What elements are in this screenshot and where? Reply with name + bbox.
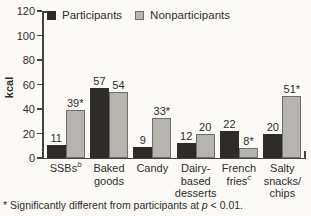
bar-group: 2051*Saltysnacks/chips [261, 11, 304, 211]
category-label: Saltysnacks/chips [264, 162, 301, 200]
legend-label: Nonparticipants [150, 9, 230, 21]
category-label: Frenchfriesc [222, 162, 256, 187]
y-tick-label: 40 [0, 103, 35, 115]
category-label: Candy [136, 162, 168, 175]
bar-pair: 228* [220, 11, 258, 158]
value-label: 39* [67, 97, 84, 109]
category-label: Dairy-baseddesserts [175, 162, 217, 200]
footnote-suffix: < 0.01. [208, 199, 243, 211]
plot-area: 1139*SSBsb5754Bakedgoods933*Candy1220Dai… [44, 11, 304, 211]
bar-nonparticipants [66, 110, 85, 158]
y-tick-label: 0 [0, 152, 35, 164]
bar-participants [263, 134, 282, 159]
value-label: 12 [180, 130, 192, 142]
category-label-line: friesc [222, 175, 256, 188]
legend: ParticipantsNonparticipants [47, 9, 230, 21]
category-superscript: c [247, 173, 251, 182]
legend-label: Participants [62, 9, 122, 21]
y-tick [37, 84, 42, 86]
bar-wrapper: 57 [90, 75, 109, 158]
y-tick [37, 35, 42, 37]
y-tick-label: 20 [0, 128, 35, 140]
category-label-line: goods [93, 175, 124, 188]
category-label-line: Dairy- [175, 162, 217, 175]
x-axis-end-tick [304, 151, 306, 158]
bar-nonparticipants [109, 92, 128, 158]
legend-item-nonparticipants: Nonparticipants [135, 9, 230, 21]
bar-chart-figure: kcal 020406080100120 1139*SSBsb5754Baked… [0, 0, 311, 216]
bar-wrapper: 12 [177, 130, 196, 158]
y-tick [37, 157, 42, 159]
category-label-line: Candy [136, 162, 168, 175]
bar-nonparticipants [196, 134, 215, 159]
y-tick [37, 133, 42, 135]
legend-swatch-nonparticipants [135, 11, 144, 20]
category-label-line: Baked [93, 162, 124, 175]
bar-wrapper: 8* [239, 135, 258, 158]
bar-participants [47, 145, 66, 159]
y-tick-label: 60 [0, 79, 35, 91]
bar-participants [177, 143, 196, 158]
y-tick-label: 100 [0, 30, 35, 42]
footnote-marker: * [3, 199, 10, 211]
bar-participants [220, 131, 239, 158]
category-label-line: Salty [264, 162, 301, 175]
category-label-line: desserts [175, 187, 217, 200]
y-tick [37, 59, 42, 61]
y-tick [37, 108, 42, 110]
footnote: * Significantly different from participa… [3, 199, 243, 211]
bar-wrapper: 51* [282, 83, 301, 159]
bar-group: 1139*SSBsb [44, 11, 87, 211]
category-label-line: SSBsb [50, 162, 82, 175]
value-label: 54 [112, 79, 124, 91]
category-superscript: b [77, 160, 81, 169]
value-label: 20 [199, 121, 211, 133]
value-label: 8* [243, 135, 253, 147]
value-label: 9 [140, 134, 146, 146]
value-label: 22 [223, 118, 235, 130]
footnote-text: Significantly different from participant… [10, 199, 202, 211]
bar-group: 1220Dairy-baseddesserts [174, 11, 217, 211]
bar-wrapper: 9 [133, 134, 152, 158]
bar-nonparticipants [239, 148, 258, 158]
bar-pair: 1220 [177, 11, 215, 158]
bar-group: 228*Frenchfriesc [217, 11, 260, 211]
value-label: 57 [93, 75, 105, 87]
value-label: 20 [267, 121, 279, 133]
bar-nonparticipants [152, 118, 171, 158]
bar-pair: 1139* [47, 11, 85, 158]
bar-wrapper: 39* [66, 97, 85, 158]
y-tick-label: 120 [0, 5, 35, 17]
value-label: 51* [284, 83, 301, 95]
y-tick-label: 80 [0, 54, 35, 66]
bar-participants [90, 88, 109, 158]
category-label: SSBsb [50, 162, 82, 175]
value-label: 33* [154, 105, 171, 117]
bar-wrapper: 20 [196, 121, 215, 159]
legend-swatch-participants [47, 11, 56, 20]
bar-wrapper: 54 [109, 79, 128, 158]
category-label-line: chips [264, 187, 301, 200]
bar-wrapper: 22 [220, 118, 239, 158]
y-tick [37, 10, 42, 12]
bar-nonparticipants [282, 96, 301, 159]
category-label-line: snacks/ [264, 175, 301, 188]
value-label: 11 [50, 132, 61, 144]
bar-wrapper: 33* [152, 105, 171, 158]
bar-pair: 5754 [90, 11, 128, 158]
bar-group: 5754Bakedgoods [87, 11, 130, 211]
bar-pair: 933* [133, 11, 171, 158]
legend-item-participants: Participants [47, 9, 122, 21]
bar-participants [133, 147, 152, 158]
bar-wrapper: 11 [47, 132, 66, 159]
bar-pair: 2051* [263, 11, 301, 158]
category-label: Bakedgoods [93, 162, 124, 187]
category-label-line: based [175, 175, 217, 188]
bar-wrapper: 20 [263, 121, 282, 159]
bar-group: 933*Candy [131, 11, 174, 211]
